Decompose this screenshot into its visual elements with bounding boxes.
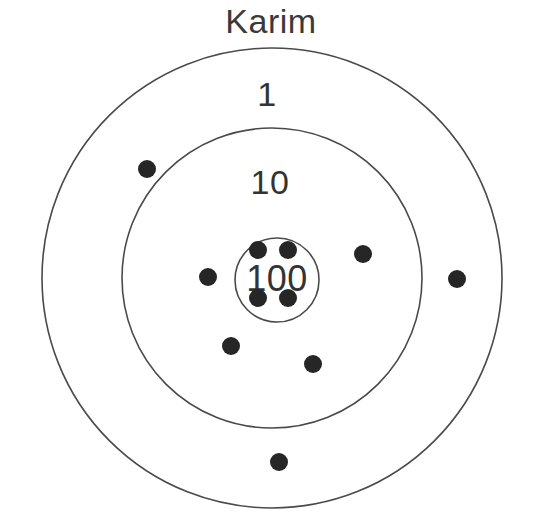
dart-dot	[222, 337, 240, 355]
ring-label-10: 10	[251, 163, 290, 201]
ring-label-group: 1 10 100	[246, 75, 308, 299]
dart-dot	[279, 289, 297, 307]
dart-dot	[354, 245, 372, 263]
target-diagram: Karim 1 10 100	[0, 0, 543, 524]
ring-label-1: 1	[257, 75, 276, 113]
dart-dot	[249, 241, 267, 259]
target-chart-figure: Karim 1 10 100	[0, 0, 543, 524]
dart-dot	[249, 289, 267, 307]
dart-dot	[448, 270, 466, 288]
dart-dot	[279, 241, 297, 259]
dart-dot	[270, 453, 288, 471]
dart-dot	[199, 268, 217, 286]
page-title: Karim	[225, 2, 316, 40]
dart-dot	[304, 355, 322, 373]
dart-dot	[138, 160, 156, 178]
